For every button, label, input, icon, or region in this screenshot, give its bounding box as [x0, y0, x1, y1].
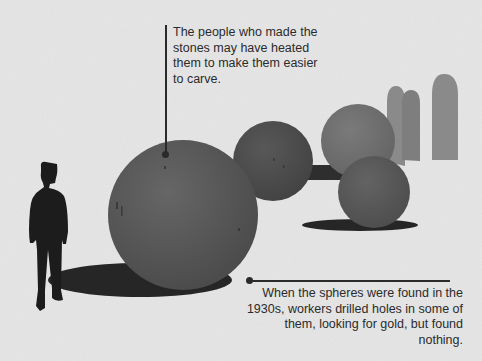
annotation-top: The people who made the stones may have …	[165, 25, 323, 87]
annotation-top-text: The people who made the stones may have …	[173, 25, 323, 87]
annotation-top-leader-dot	[162, 151, 169, 158]
annotation-top-leader-line	[165, 87, 167, 153]
front-sphere	[108, 140, 258, 290]
annotation-bottom-text: When the spheres were found in the 1930s…	[246, 286, 463, 348]
right-sphere	[338, 156, 410, 228]
annotation-bottom-leader-line	[250, 280, 450, 282]
